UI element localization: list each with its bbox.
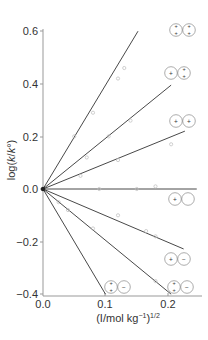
x-tick-label: 0.1: [97, 298, 112, 310]
data-point: [154, 185, 157, 188]
data-point: [129, 119, 132, 122]
svg-text:−: −: [122, 284, 126, 291]
series-points: [57, 66, 173, 282]
ion-pair-2plus-minus-right: + + −: [168, 280, 194, 293]
svg-text:+: +: [109, 280, 112, 286]
data-point: [91, 111, 94, 114]
data-point: [116, 77, 119, 80]
y-tick-label: 0.0: [23, 183, 38, 195]
series-line: [43, 31, 138, 189]
x-tick-label: 0.2: [160, 298, 175, 310]
svg-text:+: +: [187, 23, 190, 29]
ion-pair-plus-2plus: + + +: [165, 66, 191, 79]
svg-text:+: +: [169, 256, 173, 263]
origin-point: [41, 187, 45, 191]
x-axis-label-exp: 1/2: [150, 312, 160, 319]
data-point: [85, 156, 88, 159]
svg-text:+: +: [172, 280, 175, 286]
ion-pair-2plus-minus-left: + + −: [105, 280, 131, 293]
x-axis-label-main: (I/mol kg: [96, 312, 138, 324]
ion-pair-plus-minus: + −: [165, 253, 191, 266]
svg-text:+: +: [187, 118, 191, 125]
svg-text:+: +: [172, 287, 175, 293]
y-axis-label-pre: log(: [5, 162, 17, 181]
y-axis-label-post: ): [5, 140, 17, 144]
ion-pair-plus-plus: + +: [170, 115, 196, 128]
series-line: [43, 189, 171, 294]
y-tick-label: −0.2: [16, 236, 38, 248]
data-point: [79, 174, 82, 177]
series-lines: [43, 31, 197, 294]
data-point: [145, 229, 148, 232]
x-tick-label: 0.0: [35, 298, 50, 310]
series-line: [43, 189, 106, 294]
svg-text:+: +: [174, 30, 177, 36]
y-tick-label: 0.6: [23, 25, 38, 37]
series-line: [43, 189, 184, 249]
ion-pair-plus-neutral: +: [169, 193, 195, 206]
svg-text:+: +: [174, 118, 178, 125]
y-axis-label: log(k/k°): [5, 140, 17, 180]
svg-text:+: +: [187, 30, 190, 36]
x-tick-labels: 0.0 0.1 0.2: [35, 298, 175, 310]
series-line: [43, 131, 185, 189]
data-point: [116, 214, 119, 217]
y-tick-label: 0.2: [23, 131, 38, 143]
svg-text:+: +: [173, 196, 177, 203]
x-axis-label-sup: −1: [138, 312, 146, 319]
y-tick-label: 0.4: [23, 78, 38, 90]
svg-text:+: +: [174, 23, 177, 29]
x-axis-label: (I/mol kg−1)1/2: [96, 312, 160, 324]
svg-text:+: +: [109, 287, 112, 293]
svg-text:+: +: [182, 66, 185, 72]
svg-text:+: +: [182, 73, 185, 79]
ion-pair-2plus-2plus: + + + +: [170, 23, 196, 36]
axes: [40, 29, 202, 296]
data-point: [123, 66, 126, 69]
data-point: [116, 158, 119, 161]
svg-text:+: +: [169, 70, 173, 77]
data-point: [170, 143, 173, 146]
ionic-strength-chart: 0.6 0.4 0.2 0.0 −0.2 −0.4 0.0 0.1 0.2 (I…: [0, 0, 208, 340]
svg-text:−: −: [182, 256, 186, 263]
y-tick-labels: 0.6 0.4 0.2 0.0 −0.2 −0.4: [16, 25, 38, 300]
svg-text:−: −: [185, 284, 189, 291]
